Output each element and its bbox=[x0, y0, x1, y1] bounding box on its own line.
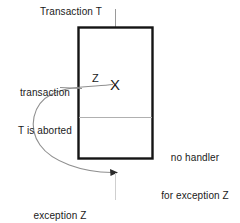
exception-propagation-diagram: Transaction T Z X transaction T is abort… bbox=[0, 0, 240, 223]
annotation-no-handler-line1: no handler bbox=[152, 152, 238, 165]
annotation-transaction-aborted-line2: T is aborted bbox=[2, 125, 88, 138]
transaction-title-label: Transaction T bbox=[40, 6, 150, 19]
annotation-transaction-aborted-line1: transaction bbox=[2, 87, 88, 100]
annotation-transaction-aborted: transaction T is aborted bbox=[2, 62, 88, 162]
throw-point-x-marker: X bbox=[110, 76, 120, 93]
annotation-exception-propagated-line1: exception Z bbox=[2, 210, 118, 223]
propagation-arrowhead bbox=[110, 169, 118, 176]
transaction-scope-box bbox=[79, 28, 153, 159]
annotation-no-handler-line2: for exception Z bbox=[152, 190, 238, 203]
annotation-no-handler: no handler for exception Z bbox=[152, 127, 238, 223]
exception-z-marker: Z bbox=[92, 72, 99, 84]
annotation-exception-propagated: exception Z is propagated to the outer s… bbox=[2, 185, 118, 223]
